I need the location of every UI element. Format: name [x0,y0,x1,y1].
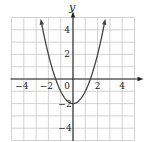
y-tick-label-neg4: −4 [58,123,72,133]
chart-canvas: x y 0 −4 −2 2 4 4 2 −2 −4 [0,0,147,141]
x-tick-label-neg4: −4 [15,81,29,91]
y-tick-label-4: 4 [64,25,70,35]
x-tick-label-4: 4 [119,81,125,91]
origin-label: 0 [64,81,70,91]
x-tick-label-neg2: −2 [40,81,53,91]
axes [11,12,144,142]
curve-arrow-left-icon [40,19,44,25]
x-axis-arrow-icon [138,77,144,81]
y-tick-label-neg2: −2 [58,99,71,109]
y-axis-label: y [68,1,76,14]
y-tick-label-2: 2 [64,49,70,59]
parabola-chart: x y 0 −4 −2 2 4 4 2 −2 −4 [0,0,147,141]
curve-arrow-right-icon [102,19,106,25]
x-tick-label-2: 2 [95,81,101,91]
